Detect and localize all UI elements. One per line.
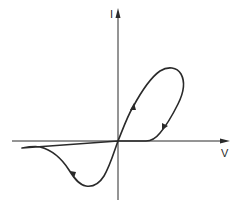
i-axis [116, 8, 121, 200]
iv-curve-figure: I V [0, 0, 240, 210]
i-axis-label: I [110, 9, 113, 20]
upper-loop-curve [118, 68, 184, 141]
v-axis-label: V [221, 148, 228, 159]
lower-loop-curve [22, 141, 118, 186]
